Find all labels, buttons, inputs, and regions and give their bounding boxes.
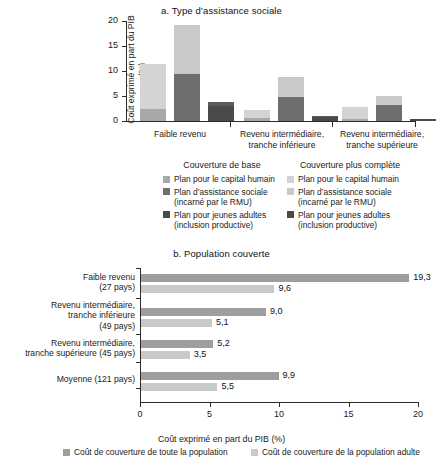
bar-g1-b2-seg1 bbox=[312, 116, 338, 117]
legend-item-complete-2[interactable]: Plan pour jeunes adultes (inclusion prod… bbox=[287, 210, 417, 231]
legend-col-complete-title: Couverture plus complète bbox=[283, 160, 417, 170]
bar-g1-b0-seg1 bbox=[244, 110, 270, 118]
panel-b-xtick-label-20: 20 bbox=[413, 409, 423, 419]
panel-b-ysep-1 bbox=[136, 298, 140, 299]
panel-a-ytick-label-10: 10 bbox=[108, 65, 118, 75]
panel-b-category-label-1: Revenu intermédiaire, tranche inférieure… bbox=[13, 300, 135, 331]
bar-g2-b2-seg0 bbox=[410, 119, 436, 121]
legend-bottom-item-1[interactable]: Coût de couverture de la population adul… bbox=[251, 447, 420, 457]
legend-bottom-item-1-label: Coût de couverture de la population adul… bbox=[262, 447, 420, 457]
legend-col-complete: Couverture plus complète Plan pour le ca… bbox=[287, 160, 417, 233]
hbar-label-r3-s0: 9,9 bbox=[283, 370, 296, 380]
panel-b-category-label-2: Revenu intermédiaire, tranche supérieure… bbox=[3, 338, 135, 359]
legend-bottom-item-0[interactable]: Coût de couverture de toute la populatio… bbox=[63, 447, 228, 457]
legend-item-complete-1-label: Plan d’assistance sociale (incarné par l… bbox=[298, 187, 392, 208]
legend-swatch-icon bbox=[63, 449, 70, 456]
bar-g1-b1-seg1 bbox=[278, 77, 304, 97]
panel-a-type-assistance: a. Type d’assistance sociale Coût exprim… bbox=[0, 0, 443, 158]
panel-b-xtick-20 bbox=[418, 402, 419, 407]
hbar-r1-s1 bbox=[141, 319, 212, 327]
bar-g1-b2-seg0 bbox=[312, 117, 338, 121]
panel-a-title: a. Type d’assistance sociale bbox=[0, 5, 443, 16]
legend-item-base-1[interactable]: Plan d’assistance sociale (incarné par l… bbox=[163, 187, 285, 208]
figure-root: a. Type d’assistance sociale Coût exprim… bbox=[0, 0, 443, 465]
panel-b-ysep-0 bbox=[136, 268, 140, 269]
hbar-label-r0-s0: 19,3 bbox=[413, 272, 431, 282]
hbar-r0-s0 bbox=[141, 274, 409, 282]
legend-item-base-1-label: Plan d’assistance sociale (incarné par l… bbox=[174, 187, 268, 208]
panel-b-xtick-0 bbox=[140, 402, 141, 407]
legend-item-complete-2-label: Plan pour jeunes adultes (inclusion prod… bbox=[298, 210, 390, 231]
hbar-r2-s0 bbox=[141, 340, 213, 348]
panel-a-category-label-2: Revenu intermédiaire, tranche supérieure bbox=[334, 129, 430, 150]
hbar-label-r3-s1: 5,5 bbox=[221, 381, 234, 391]
panel-a-ytick-label-5: 5 bbox=[113, 90, 118, 100]
hbar-label-r0-s1: 9,6 bbox=[278, 283, 291, 293]
legend-swatch-icon bbox=[163, 211, 170, 218]
panel-a-y-axis-line bbox=[126, 21, 127, 121]
panel-b-xtick-label-5: 5 bbox=[207, 409, 212, 419]
legend-swatch-icon bbox=[287, 211, 294, 218]
bar-g1-b1-seg0 bbox=[278, 97, 304, 122]
panel-a-group-sep-3 bbox=[415, 121, 416, 127]
panel-a-ytick-20: 20 bbox=[122, 21, 126, 22]
panel-b-xtick-label-0: 0 bbox=[137, 409, 142, 419]
panel-a-category-label-0: Faible revenu bbox=[134, 129, 226, 140]
panel-b-ysep-2 bbox=[136, 334, 140, 335]
legend-middle: Couverture de base Plan pour le capital … bbox=[0, 160, 443, 246]
panel-a-group-sep-1 bbox=[230, 121, 231, 127]
legend-col-base-title: Couverture de base bbox=[159, 160, 285, 170]
bar-g2-b1-seg0 bbox=[376, 105, 402, 122]
panel-b-xtick-5 bbox=[210, 402, 211, 407]
panel-b-x-axis-title: Coût exprimé en part du PIB (%) bbox=[0, 434, 443, 444]
legend-item-base-0[interactable]: Plan pour le capital humain bbox=[163, 174, 285, 185]
panel-a-ytick-label-0: 0 bbox=[113, 115, 118, 125]
bar-g1-b0-seg0 bbox=[244, 118, 270, 121]
panel-a-group-sep-2 bbox=[332, 121, 333, 127]
hbar-label-r2-s0: 5,2 bbox=[217, 338, 230, 348]
panel-b-category-label-3: Moyenne (121 pays) bbox=[13, 374, 135, 384]
panel-b-title: b. Population couverte bbox=[0, 248, 443, 259]
legend-item-complete-0-label: Plan pour le capital humain bbox=[298, 174, 399, 185]
panel-b-xtick-label-10: 10 bbox=[274, 409, 284, 419]
bar-g0-b0-seg0 bbox=[140, 109, 166, 122]
legend-swatch-icon bbox=[251, 449, 258, 456]
panel-a-ytick-15: 15 bbox=[122, 46, 126, 47]
bar-g2-b1-seg1 bbox=[376, 96, 402, 105]
legend-col-base: Couverture de base Plan pour le capital … bbox=[163, 160, 285, 233]
panel-b-plot-area: Faible revenu (27 pays) 19,3 9,6 Revenu … bbox=[140, 268, 418, 402]
legend-item-base-2[interactable]: Plan pour jeunes adultes (inclusion prod… bbox=[163, 210, 285, 231]
bar-g0-b0-seg1 bbox=[140, 64, 166, 109]
legend-swatch-icon bbox=[287, 176, 294, 183]
panel-a-x-axis-line bbox=[126, 121, 416, 122]
hbar-label-r1-s0: 9,0 bbox=[270, 306, 283, 316]
bar-g2-b0-seg1 bbox=[342, 107, 368, 119]
legend-swatch-icon bbox=[163, 176, 170, 183]
hbar-r2-s1 bbox=[141, 351, 190, 359]
bar-g0-b1-seg0 bbox=[174, 74, 200, 121]
panel-a-ytick-label-20: 20 bbox=[108, 15, 118, 25]
bar-g0-b2-seg1 bbox=[208, 102, 234, 106]
legend-swatch-icon bbox=[163, 188, 170, 195]
hbar-r3-s1 bbox=[141, 383, 217, 391]
bar-g0-b1-seg1 bbox=[174, 25, 200, 74]
panel-b-ysep-4 bbox=[136, 388, 140, 389]
hbar-r0-s1 bbox=[141, 285, 274, 293]
hbar-r1-s0 bbox=[141, 308, 266, 316]
bar-g0-b2-seg0 bbox=[208, 106, 234, 121]
legend-item-base-0-label: Plan pour le capital humain bbox=[174, 174, 275, 185]
panel-b-xtick-10 bbox=[279, 402, 280, 407]
legend-item-base-2-label: Plan pour jeunes adultes (inclusion prod… bbox=[174, 210, 266, 231]
legend-item-complete-1[interactable]: Plan d’assistance sociale (incarné par l… bbox=[287, 187, 417, 208]
panel-a-category-label-1: Revenu intermédiaire, tranche inférieure bbox=[234, 129, 330, 150]
panel-a-plot-area: 0 5 10 15 20 bbox=[126, 21, 416, 121]
panel-b-ysep-3 bbox=[136, 362, 140, 363]
panel-b-xtick-15 bbox=[349, 402, 350, 407]
panel-a-ytick-10: 10 bbox=[122, 71, 126, 72]
legend-item-complete-0[interactable]: Plan pour le capital humain bbox=[287, 174, 417, 185]
panel-b-population-couverte: b. Population couverte Faible revenu (27… bbox=[0, 248, 443, 465]
panel-b-category-label-0: Faible revenu (27 pays) bbox=[13, 272, 135, 293]
panel-a-ytick-0: 0 bbox=[122, 121, 126, 122]
panel-a-ytick-5: 5 bbox=[122, 96, 126, 97]
hbar-r3-s0 bbox=[141, 372, 279, 380]
